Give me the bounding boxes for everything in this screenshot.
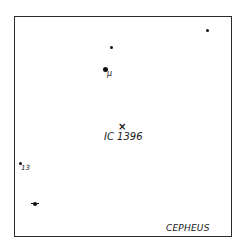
constellation-label: CEPHEUS [166, 224, 210, 233]
ic1396-label: IC 1396 [104, 132, 143, 142]
star-mu-label: μ [107, 70, 112, 78]
star-lower-left-spike [31, 203, 39, 204]
star-13-label: 13 [21, 165, 30, 172]
star-upper [110, 46, 113, 49]
star-top-right [206, 29, 209, 32]
